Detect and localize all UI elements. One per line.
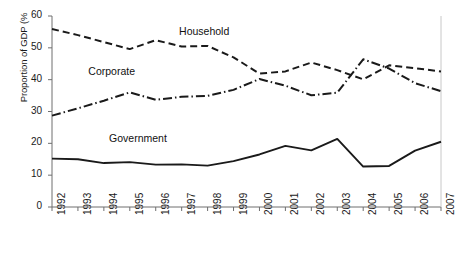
series-line-corporate <box>52 59 441 115</box>
series-line-household <box>52 29 441 79</box>
data-lines <box>52 29 441 167</box>
axes <box>48 16 441 211</box>
series-line-government <box>52 139 441 167</box>
